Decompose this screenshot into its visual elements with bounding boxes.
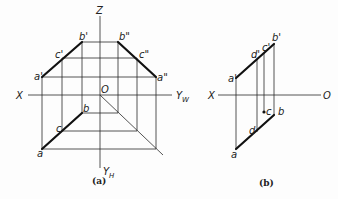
- point-b: b: [83, 103, 89, 114]
- orthographic-projection-figure: Z X O YW YH b' c' a' b" c" a" b c a (a) …: [0, 0, 338, 199]
- point-a-b: a: [231, 149, 237, 160]
- miter-line: [100, 95, 163, 155]
- point-a-prime-b: a': [228, 73, 237, 84]
- origin-label-b: O: [323, 90, 331, 101]
- axis-x-label-b: X: [207, 90, 216, 101]
- figure-b: X O b' c' d' a' c b d a (b): [207, 32, 331, 188]
- caption-a: (a): [92, 176, 106, 186]
- point-a-dprime: a": [157, 72, 168, 83]
- point-c-prime-b: c': [262, 42, 270, 53]
- origin-label: O: [101, 84, 109, 95]
- point-a-prime: a': [34, 71, 43, 82]
- point-c-prime: c': [55, 49, 63, 60]
- point-b-dprime: b": [119, 31, 130, 42]
- axis-z-label: Z: [95, 5, 104, 16]
- point-c-dprime: c": [139, 49, 149, 60]
- point-d-prime-b: d': [251, 49, 260, 60]
- point-b-prime-b: b': [272, 32, 281, 43]
- axis-x-label: X: [15, 90, 24, 101]
- point-c-b: c: [266, 106, 272, 117]
- caption-b: (b): [259, 178, 274, 188]
- point-d-b: d: [249, 125, 256, 136]
- point-b-prime: b': [79, 31, 88, 42]
- projection-drawing: Z X O YW YH b' c' a' b" c" a" b c a (a) …: [0, 0, 338, 199]
- figure-a: Z X O YW YH b' c' a' b" c" a" b c a (a): [15, 5, 190, 186]
- point-a: a: [37, 148, 43, 159]
- point-b-b: b: [278, 106, 284, 117]
- axis-yw-label: YW: [176, 90, 190, 104]
- point-c: c: [56, 123, 62, 134]
